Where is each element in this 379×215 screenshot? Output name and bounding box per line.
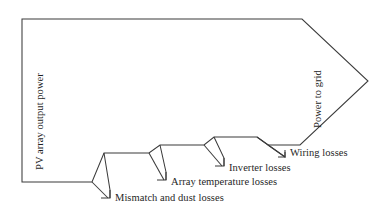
branch-arrow-array-temp — [149, 153, 164, 180]
branch-arrow-mismatch-head — [101, 190, 110, 198]
branch-arrow-mismatch — [92, 182, 108, 198]
loss-label-inverter: Inverter losses — [229, 162, 291, 173]
loss-label-mismatch: Mismatch and dust losses — [115, 192, 224, 203]
branch-arrow-wiring-tail — [257, 137, 285, 157]
loss-label-array-temperature: Array temperature losses — [171, 176, 277, 187]
input-power-label: PV array output power — [34, 73, 45, 170]
branch-arrow-inverter-tail — [214, 137, 224, 166]
output-power-label: Power to grid — [312, 70, 323, 128]
loss-label-wiring: Wiring losses — [290, 147, 348, 158]
branch-arrow-mismatch-tail — [104, 153, 110, 198]
loss-flow-diagram: PV array output power Power to grid Mism… — [0, 0, 379, 215]
